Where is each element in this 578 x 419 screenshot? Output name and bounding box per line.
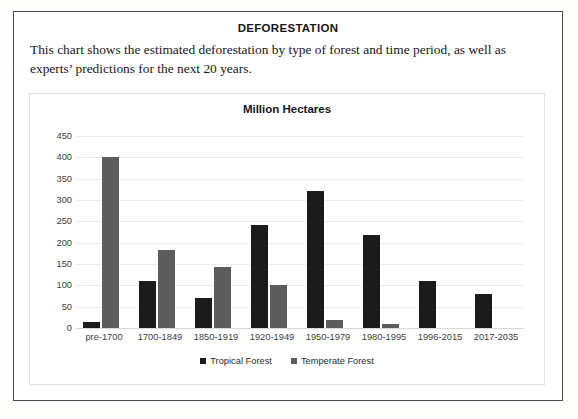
bar-temperate [382, 324, 399, 328]
bar-group [468, 136, 524, 328]
plot-area [76, 136, 524, 328]
legend-item: Temperate Forest [291, 356, 374, 366]
y-axis: 450400350300250200150100500 [34, 136, 72, 328]
x-axis-tick-label: 1700-1849 [132, 332, 188, 342]
chart-legend: Tropical ForestTemperate Forest [30, 356, 544, 366]
bar-group [356, 136, 412, 328]
legend-label: Tropical Forest [210, 356, 272, 366]
x-axis-tick-label: 1920-1949 [244, 332, 300, 342]
bar-temperate [270, 285, 287, 328]
bar-tropical [139, 281, 156, 328]
y-axis-tick-label: 450 [38, 131, 72, 141]
bar-group [244, 136, 300, 328]
bar-tropical [419, 281, 436, 328]
x-axis: pre-17001700-18491850-19191920-19491950-… [76, 332, 524, 346]
bars-layer [76, 136, 524, 328]
legend-label: Temperate Forest [301, 356, 374, 366]
legend-item: Tropical Forest [200, 356, 272, 366]
y-axis-tick-label: 50 [38, 302, 72, 312]
bar-group [132, 136, 188, 328]
legend-swatch-icon [291, 358, 297, 364]
chart-title: Million Hectares [30, 103, 544, 115]
y-axis-tick-label: 150 [38, 259, 72, 269]
bar-tropical [363, 235, 380, 328]
legend-swatch-icon [200, 358, 206, 364]
y-axis-tick-label: 100 [38, 280, 72, 290]
y-axis-tick-label: 350 [38, 174, 72, 184]
document-description: This chart shows the estimated deforesta… [30, 40, 548, 78]
bar-group [412, 136, 468, 328]
bar-group [188, 136, 244, 328]
page-root: DEFORESTATION This chart shows the estim… [0, 0, 578, 419]
chart-panel: Million Hectares 45040035030025020015010… [29, 93, 545, 385]
page-title: DEFORESTATION [14, 22, 562, 34]
bar-temperate [214, 267, 231, 328]
x-axis-tick-label: 1850-1919 [188, 332, 244, 342]
x-axis-tick-label: 2017-2035 [468, 332, 524, 342]
y-axis-tick-label: 200 [38, 238, 72, 248]
y-axis-tick-label: 250 [38, 216, 72, 226]
bar-group [300, 136, 356, 328]
bar-tropical [475, 294, 492, 328]
x-axis-tick-label: 1996-2015 [412, 332, 468, 342]
bar-temperate [326, 320, 343, 328]
x-axis-tick-label: 1950-1979 [300, 332, 356, 342]
gridline [76, 328, 524, 329]
y-axis-tick-label: 0 [38, 323, 72, 333]
bar-tropical [83, 322, 100, 328]
bar-group [76, 136, 132, 328]
y-axis-tick-label: 400 [38, 152, 72, 162]
x-axis-tick-label: pre-1700 [76, 332, 132, 342]
bar-tropical [251, 225, 268, 328]
bar-tropical [307, 191, 324, 328]
document-card: DEFORESTATION This chart shows the estim… [13, 11, 563, 401]
bar-tropical [195, 298, 212, 328]
bar-temperate [102, 157, 119, 328]
y-axis-tick-label: 300 [38, 195, 72, 205]
x-axis-tick-label: 1980-1995 [356, 332, 412, 342]
bar-temperate [158, 250, 175, 328]
